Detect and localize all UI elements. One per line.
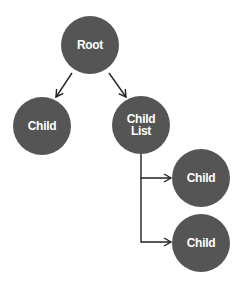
node-label: Child bbox=[28, 120, 57, 132]
node-child-right-2: Child bbox=[172, 214, 230, 272]
edge-child-list-to-child-right-2 bbox=[141, 178, 171, 242]
node-label: Child bbox=[187, 172, 216, 184]
node-label: Child bbox=[187, 237, 216, 249]
node-child-list: Child List bbox=[112, 96, 170, 154]
node-child-left: Child bbox=[13, 97, 71, 155]
node-label: Root bbox=[77, 39, 103, 51]
tree-diagram: Root Child Child List Child Child bbox=[0, 0, 243, 283]
edge-child-list-to-child-right-1 bbox=[141, 154, 171, 178]
node-child-right-1: Child bbox=[172, 149, 230, 207]
edge-root-to-child-left bbox=[56, 73, 72, 97]
node-label-line-2: List bbox=[131, 125, 151, 137]
node-root: Root bbox=[61, 16, 119, 74]
edge-root-to-child-list bbox=[109, 73, 126, 97]
